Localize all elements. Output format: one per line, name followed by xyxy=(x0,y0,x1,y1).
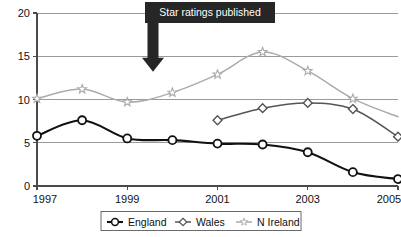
marker-diamond xyxy=(348,105,357,114)
annotation-label: Star ratings published xyxy=(159,6,261,18)
x-tick-label: 1999 xyxy=(115,193,139,205)
marker-circle xyxy=(78,116,86,124)
marker-circle xyxy=(304,148,312,156)
marker-star xyxy=(258,47,267,55)
chart-canvas: 0510152019971999200120032005Star ratings… xyxy=(0,0,401,237)
marker-circle xyxy=(123,134,131,142)
annotation-arrow xyxy=(142,23,164,72)
marker-circle xyxy=(394,175,401,183)
series-wales xyxy=(213,99,401,142)
marker-circle xyxy=(259,140,267,148)
line-chart: 0510152019971999200120032005Star ratings… xyxy=(0,0,401,237)
y-axis-ticks: 05101520 xyxy=(18,7,37,192)
legend-label: England xyxy=(128,216,167,228)
series-line xyxy=(37,120,398,179)
y-tick-label: 0 xyxy=(24,180,30,192)
series-england xyxy=(33,116,401,183)
legend-item-n-ireland[interactable]: N Ireland xyxy=(236,216,300,228)
legend-item-england[interactable]: England xyxy=(107,216,167,228)
y-tick-label: 10 xyxy=(18,94,30,106)
x-tick-label: 2003 xyxy=(296,193,320,205)
marker-star xyxy=(123,98,132,106)
x-axis-ticks: 19971999200120032005 xyxy=(33,186,401,205)
marker-star xyxy=(349,94,358,102)
legend-label: Wales xyxy=(196,216,225,228)
marker-star xyxy=(33,94,42,102)
legend-label: N Ireland xyxy=(257,216,300,228)
y-tick-label: 20 xyxy=(18,7,30,19)
x-tick-label: 2005 xyxy=(377,193,401,205)
marker-star xyxy=(240,218,247,225)
series-line xyxy=(37,52,398,117)
y-tick-label: 5 xyxy=(24,137,30,149)
y-tick-label: 15 xyxy=(18,50,30,62)
gridlines xyxy=(37,13,398,186)
marker-star xyxy=(213,70,222,78)
legend: EnglandWalesN Ireland xyxy=(101,212,301,231)
marker-diamond xyxy=(213,116,222,125)
legend-item-wales[interactable]: Wales xyxy=(175,216,225,228)
x-tick-label: 2001 xyxy=(205,193,229,205)
marker-diamond xyxy=(258,104,267,113)
marker-circle xyxy=(168,136,176,144)
marker-diamond xyxy=(179,218,186,225)
marker-star xyxy=(78,85,87,93)
marker-star xyxy=(168,88,177,96)
annotation-star-ratings: Star ratings published xyxy=(142,2,275,72)
x-tick-label: 1997 xyxy=(33,193,57,205)
marker-diamond xyxy=(394,132,401,141)
marker-circle xyxy=(349,168,357,176)
marker-circle xyxy=(33,132,41,140)
marker-circle xyxy=(112,219,119,226)
marker-circle xyxy=(214,140,222,148)
